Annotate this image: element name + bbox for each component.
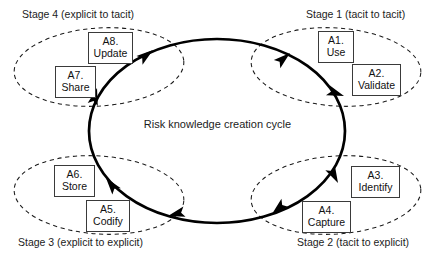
node-a4-label: Capture bbox=[307, 216, 346, 228]
node-a4-capture: A4. Capture bbox=[302, 201, 351, 233]
node-a6-label: Store bbox=[59, 180, 90, 192]
node-a2-code: A2. bbox=[357, 67, 396, 79]
node-a5-code: A5. bbox=[91, 203, 125, 215]
node-a8-code: A8. bbox=[93, 35, 128, 47]
cycle-ellipse bbox=[89, 39, 345, 223]
node-a7-label: Share bbox=[60, 81, 91, 93]
node-a1-code: A1. bbox=[323, 34, 349, 46]
node-a2-validate: A2. Validate bbox=[352, 64, 401, 96]
node-a5-label: Codify bbox=[91, 215, 125, 227]
node-a3-label: Identify bbox=[356, 181, 395, 193]
stage-3-caption: Stage 3 (explicit to explicit) bbox=[18, 236, 143, 248]
node-a2-label: Validate bbox=[357, 79, 396, 91]
node-a8-update: A8. Update bbox=[88, 32, 133, 64]
node-a5-codify: A5. Codify bbox=[86, 200, 130, 232]
stage-1-caption: Stage 1 (tacit to tacit) bbox=[306, 8, 405, 20]
node-a4-code: A4. bbox=[307, 204, 346, 216]
node-a7-code: A7. bbox=[60, 69, 91, 81]
node-a8-label: Update bbox=[93, 47, 128, 59]
node-a1-use: A1. Use bbox=[318, 31, 354, 63]
arrow-to-update bbox=[136, 46, 156, 64]
stage-4-caption: Stage 4 (explicit to tacit) bbox=[22, 8, 134, 20]
node-a7-share: A7. Share bbox=[55, 66, 96, 98]
node-a3-code: A3. bbox=[356, 169, 395, 181]
node-a3-identify: A3. Identify bbox=[351, 166, 400, 198]
knowledge-cycle-diagram: Stage 4 (explicit to tacit) Stage 1 (tac… bbox=[0, 0, 435, 263]
stage-2-caption: Stage 2 (tacit to explicit) bbox=[297, 236, 409, 248]
node-a6-code: A6. bbox=[59, 168, 90, 180]
cycle-flow-layer bbox=[0, 0, 435, 263]
cycle-center-label: Risk knowledge creation cycle bbox=[139, 118, 296, 131]
node-a1-label: Use bbox=[323, 46, 349, 58]
node-a6-store: A6. Store bbox=[54, 165, 95, 197]
